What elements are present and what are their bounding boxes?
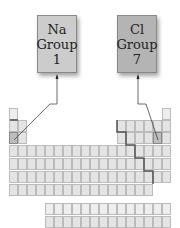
pointer-arrows <box>0 0 180 228</box>
chlorine-arrow <box>138 76 158 140</box>
metal-nonmetal-staircase <box>117 120 153 184</box>
sodium-arrow <box>14 76 57 140</box>
